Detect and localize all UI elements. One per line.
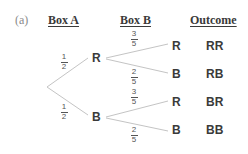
denominator: 5 xyxy=(132,78,136,86)
prob-br: 3 5 xyxy=(130,88,138,106)
prob-first-r: 1 2 xyxy=(60,53,68,71)
prob-rr: 3 5 xyxy=(130,30,138,48)
denominator: 5 xyxy=(132,98,136,106)
node-first-r: R xyxy=(92,52,101,64)
numerator: 3 xyxy=(132,30,136,38)
header-box-a: Box A xyxy=(48,13,79,28)
outcome-rb: RB xyxy=(206,68,223,80)
denominator: 2 xyxy=(62,63,66,71)
numerator: 2 xyxy=(132,68,136,76)
prob-bb: 2 5 xyxy=(130,126,138,144)
denominator: 5 xyxy=(132,136,136,144)
prob-first-b: 1 2 xyxy=(60,103,68,121)
outcome-rr: RR xyxy=(206,40,223,52)
numerator: 2 xyxy=(132,126,136,134)
node-second-rb: B xyxy=(172,68,181,80)
numerator: 1 xyxy=(62,53,66,61)
numerator: 3 xyxy=(132,88,136,96)
node-second-bb: B xyxy=(172,124,181,136)
prob-rb: 2 5 xyxy=(130,68,138,86)
denominator: 5 xyxy=(132,40,136,48)
node-second-rr: R xyxy=(172,40,181,52)
outcome-bb: BB xyxy=(206,124,223,136)
denominator: 2 xyxy=(62,113,66,121)
header-outcome: Outcome xyxy=(190,13,237,28)
outcome-br: BR xyxy=(206,96,223,108)
node-second-br: R xyxy=(172,96,181,108)
numerator: 1 xyxy=(62,103,66,111)
header-box-b: Box B xyxy=(120,13,151,28)
node-first-b: B xyxy=(92,111,101,123)
part-label: (a) xyxy=(15,13,28,28)
